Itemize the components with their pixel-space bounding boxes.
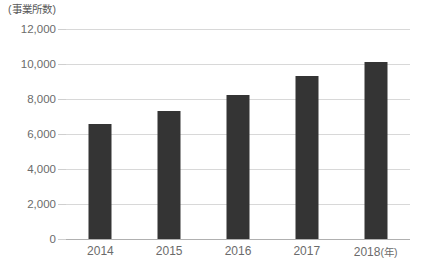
x-axis-tick-label: 2014 (87, 244, 114, 258)
y-tick-mark (58, 99, 66, 100)
plot-area (66, 29, 410, 239)
y-axis-tick-label: 12,000 (0, 23, 56, 35)
bar[interactable] (226, 95, 249, 239)
bar-slot (66, 29, 135, 239)
y-axis-unit-caption: (事業所数) (8, 1, 56, 16)
bar[interactable] (364, 62, 387, 239)
bar[interactable] (295, 76, 318, 239)
y-tick-mark (58, 134, 66, 135)
gridline (66, 239, 410, 240)
y-axis-tick-label: 2,000 (0, 198, 56, 210)
y-axis-tick-label: 4,000 (0, 163, 56, 175)
bar-slot (135, 29, 204, 239)
bar-slot (204, 29, 273, 239)
y-axis-tick-label: 0 (0, 233, 56, 245)
y-axis-tick-label: 6,000 (0, 128, 56, 140)
x-axis-tick-label: 2018(年) (354, 244, 398, 259)
x-axis-tick-label: 2017 (293, 244, 320, 258)
bar[interactable] (158, 111, 181, 239)
y-tick-mark (58, 204, 66, 205)
bar-series (66, 29, 410, 239)
x-axis-unit-caption: (年) (380, 246, 397, 258)
x-axis-tick-label: 2015 (156, 244, 183, 258)
bar[interactable] (89, 124, 112, 239)
bar-slot (341, 29, 410, 239)
y-tick-mark (58, 239, 66, 240)
y-axis-tick-label: 8,000 (0, 93, 56, 105)
y-axis-tick-label: 10,000 (0, 58, 56, 70)
y-tick-mark (58, 169, 66, 170)
bar-chart: (事業所数) 02,0004,0006,0008,00010,00012,000… (0, 0, 425, 276)
y-tick-mark (58, 29, 66, 30)
x-axis-tick-label: 2016 (225, 244, 252, 258)
bar-slot (272, 29, 341, 239)
y-tick-mark (58, 64, 66, 65)
